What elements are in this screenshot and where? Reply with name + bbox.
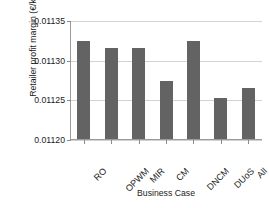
y-tick-mark — [67, 140, 71, 141]
bar-duos — [214, 98, 227, 139]
x-tick-label: RO — [92, 166, 109, 183]
chart-figure: Retailer profit margin (€/kWh) 0.011200.… — [0, 0, 269, 208]
bar-all — [242, 88, 255, 139]
x-tick-mark — [166, 140, 167, 144]
y-tick-mark — [67, 21, 71, 22]
y-tick-label: 0.01125 — [34, 95, 65, 105]
y-axis-line — [70, 21, 71, 140]
x-tick-label: MIR — [148, 166, 167, 185]
x-tick-mark — [111, 140, 112, 144]
x-tick-label: All — [255, 166, 269, 180]
gridline — [70, 21, 262, 22]
y-tick-mark — [67, 61, 71, 62]
bar-ro — [77, 41, 90, 139]
gridline — [70, 61, 262, 62]
x-tick-label: DUoS — [232, 166, 256, 190]
x-axis-title: Business Case — [70, 188, 262, 198]
x-tick-mark — [248, 140, 249, 144]
x-tick-mark — [84, 140, 85, 144]
x-tick-label: CM — [174, 166, 191, 183]
bar-opwm — [105, 48, 118, 139]
bar-dncm — [187, 41, 200, 139]
x-tick-mark — [221, 140, 222, 144]
plot-area: 0.011200.011250.011300.01135 ROOPWMMIRCM… — [70, 21, 262, 140]
bar-cm — [160, 81, 173, 139]
y-tick-label: 0.01120 — [34, 135, 65, 145]
y-tick-label: 0.01130 — [34, 56, 65, 66]
y-tick-label: 0.01135 — [34, 16, 65, 26]
y-tick-mark — [67, 100, 71, 101]
x-tick-mark — [139, 140, 140, 144]
x-tick-mark — [193, 140, 194, 144]
bar-mir — [132, 48, 145, 139]
